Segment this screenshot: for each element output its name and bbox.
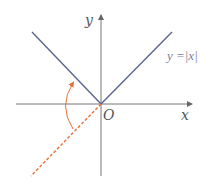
reflected-dashed-line [31, 104, 101, 176]
graph-right-branch [101, 32, 172, 104]
diagram-canvas [0, 0, 212, 186]
x-axis-label: x [181, 108, 189, 122]
reflection-arc-arrow [66, 83, 74, 129]
y-axis-label: y [85, 13, 93, 27]
function-label: y =|x| [167, 49, 198, 62]
graph-left-branch [32, 32, 101, 104]
origin-label: O [103, 108, 114, 122]
abs-value-diagram: y x O y =|x| [0, 0, 212, 186]
